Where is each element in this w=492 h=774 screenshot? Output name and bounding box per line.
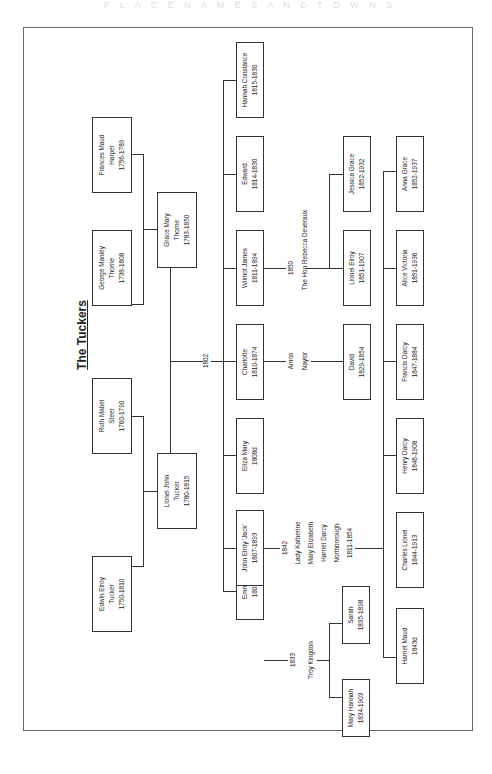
connector (329, 623, 343, 624)
faded-header-text: P L A C E N A M E S A N D T O W N S (90, 0, 410, 10)
connector (329, 174, 330, 269)
spouse-troy-kingdon: Troy Kingdon (306, 641, 316, 679)
person-jessica-grace[interactable]: Jessica Grace1852-1932 (343, 136, 371, 212)
person-name: Lionel Elroy (348, 251, 355, 284)
person-lionel-elroy[interactable]: Lionel Elroy1851-1907 (343, 230, 371, 306)
person-dates: 1834-1903 (357, 693, 364, 724)
connector (383, 361, 397, 362)
person-alice-victoria[interactable]: Alice Victoria1851-1936 (396, 230, 424, 306)
connector (264, 361, 286, 362)
person-name: Hannah Constance (241, 53, 248, 108)
person-dates: 1852-1937 (411, 159, 418, 190)
person-name: Mary Hannah (347, 689, 354, 727)
person-henry-darcy[interactable]: Henry Darcy1846-1908 (396, 418, 424, 494)
person-dates: 1738-1808 (118, 253, 125, 284)
person-name: Eliza Mary (241, 441, 248, 471)
person-name: George Manley (98, 246, 105, 290)
person-surname: Harper (108, 145, 115, 165)
marriage-year-jack: 1842 (280, 541, 290, 555)
connector (223, 361, 237, 362)
connector (223, 591, 237, 592)
spouse-line-3: Harriet Darcy (319, 524, 329, 562)
person-john-elroy-jack[interactable]: John Elroy 'Jack'1807-1893 (236, 510, 264, 586)
person-hannah-constance[interactable]: Hannah Constance1815-1830 (236, 42, 264, 118)
person-surname: Steer (108, 408, 115, 423)
connector (329, 697, 343, 698)
person-sarah[interactable]: Sarah1835-1898 (342, 586, 370, 644)
connector (383, 657, 397, 658)
person-lionel-john-tucker[interactable]: Lionel JohnTucker1780-1815 (157, 453, 197, 529)
person-name: Francis Darcy (401, 342, 408, 381)
connector (355, 548, 383, 549)
person-anna-grace[interactable]: Anna Grace1852-1937 (396, 136, 424, 212)
person-surname: Tucker (173, 481, 180, 500)
connector (223, 548, 237, 549)
person-ruth-mabel-steer[interactable]: Ruth MabelSteer1760-1790 (92, 378, 132, 454)
connector (329, 174, 343, 175)
person-charles-lionel[interactable]: Charles Lionel1844-1913 (396, 512, 424, 588)
spouse-rebecca-deveraux: The Hon Rebecca Deveraux (300, 210, 310, 291)
person-george-manley-thorne[interactable]: George ManleyThorne1738-1808 (92, 230, 132, 306)
person-name: Edwin Elroy (98, 577, 105, 611)
person-mary-hannah[interactable]: Mary Hannah1834-1903 (342, 679, 370, 737)
person-dates: 1783-1850 (183, 215, 190, 246)
spouse-line-1: Lady Katherine (293, 522, 303, 565)
person-frances-maud-harper[interactable]: Frances MaudHarper1756-1789 (92, 117, 132, 193)
connector (311, 361, 344, 362)
person-name: Frances Maud (98, 135, 105, 176)
connector (305, 268, 329, 269)
marriage-year-wilmot: 1850 (286, 261, 296, 275)
person-name: Charlotte (241, 349, 248, 375)
connector (329, 268, 343, 269)
connector (223, 455, 237, 456)
person-dates: 1810-1874 (251, 347, 258, 378)
person-edwin-elroy-tucker[interactable]: Edwin ElroyTucker1750-1810 (92, 556, 132, 632)
person-dates: 1807-1893 (251, 533, 258, 564)
person-name: Grace Mary (163, 213, 170, 246)
spouse-line-5: 1811-1854 (345, 528, 355, 558)
connector (383, 171, 397, 172)
connector (143, 229, 157, 230)
person-name: Jessica Grace (348, 154, 355, 195)
person-grace-mary-thorne[interactable]: Grace MaryThorne1783-1850 (157, 192, 197, 268)
person-name: John Elroy 'Jack' (241, 524, 248, 572)
person-harriet-maud[interactable]: Harriet Maud1843d (396, 608, 424, 684)
person-dates: 1843d (411, 637, 418, 655)
person-charlotte[interactable]: Charlotte1810-1874 (236, 324, 264, 400)
spouse-amos: Amos (286, 353, 296, 369)
person-name: Ruth Mabel (98, 400, 105, 433)
connector (329, 623, 330, 698)
connector (264, 660, 288, 661)
connector (170, 361, 203, 362)
person-dates: 1847-1884 (411, 347, 418, 378)
person-dates: 1844-1913 (411, 535, 418, 566)
page-title: The Tuckers (75, 300, 89, 370)
person-surname: Tucker (108, 584, 115, 603)
connector (143, 491, 157, 492)
person-dates: 1756-1789 (118, 140, 125, 171)
connector (383, 268, 397, 269)
person-dates: 1760-1790 (118, 401, 125, 432)
connector (223, 174, 237, 175)
person-dates: 1750-1810 (118, 579, 125, 610)
person-eliza-mary[interactable]: Eliza Mary1808d (236, 418, 264, 494)
person-dates: 1835-1898 (357, 600, 364, 631)
person-david[interactable]: David1829-1854 (343, 324, 371, 400)
connector (223, 80, 237, 81)
person-surname: Thorne (173, 220, 180, 240)
spouse-line-4: Northborough (332, 523, 342, 562)
person-name: Alice Victoria (401, 250, 408, 287)
marriage-year-label: 1802 (201, 354, 211, 368)
person-name: Harriet Maud (401, 628, 408, 665)
person-edward[interactable]: Edward1814-1830 (236, 136, 264, 212)
person-name: Anna Grace (401, 157, 408, 191)
person-dates: 1829-1854 (358, 347, 365, 378)
person-dates: 1780-1815 (183, 476, 190, 507)
person-dates: 1852-1932 (358, 159, 365, 190)
person-francis-darcy[interactable]: Francis Darcy1847-1884 (396, 324, 424, 400)
person-wilmot-james[interactable]: Wilmot James1811-1894 (236, 230, 264, 306)
spouse-naylor: Naylor (300, 352, 310, 370)
person-name: Henry Darcy (401, 438, 408, 474)
person-dates: 1815-1830 (251, 65, 258, 96)
person-name: Wilmot James (241, 248, 248, 288)
